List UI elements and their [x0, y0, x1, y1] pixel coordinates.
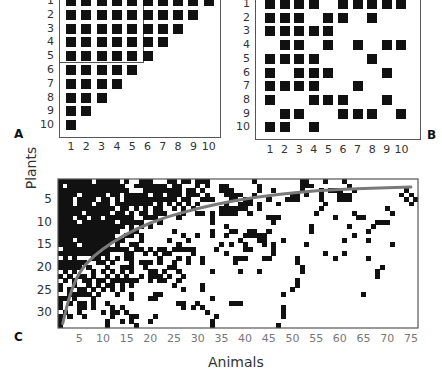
x-axis-title: Animals [208, 354, 264, 370]
col-tick-label: 10 [93, 333, 113, 345]
col-tick-label: 15 [117, 333, 137, 345]
col-tick-label: 65 [354, 333, 374, 345]
col-tick-label: 35 [211, 333, 231, 345]
col-tick-label: 75 [401, 333, 421, 345]
isocline-curve [63, 187, 411, 323]
row-tick-label: 10 [28, 216, 52, 228]
col-tick-label: 25 [164, 333, 184, 345]
col-tick-label: 5 [69, 333, 89, 345]
col-tick-label: 60 [330, 333, 350, 345]
col-tick-label: 40 [235, 333, 255, 345]
col-tick-label: 70 [377, 333, 397, 345]
col-tick-label: 30 [188, 333, 208, 345]
row-tick-label: 5 [28, 193, 52, 205]
panel-c: 51015202530 5101520253035404550556065707… [0, 0, 442, 379]
row-tick-label: 25 [28, 284, 52, 296]
row-tick-label: 30 [28, 306, 52, 318]
row-tick-label: 20 [28, 261, 52, 273]
panel-c-frame-and-isocline [0, 0, 442, 379]
col-tick-label: 50 [282, 333, 302, 345]
row-tick-label: 15 [28, 238, 52, 250]
col-tick-label: 45 [259, 333, 279, 345]
panel-c-label: C [14, 330, 23, 344]
col-tick-label: 55 [306, 333, 326, 345]
col-tick-label: 20 [140, 333, 160, 345]
